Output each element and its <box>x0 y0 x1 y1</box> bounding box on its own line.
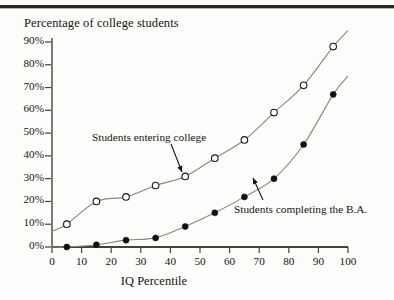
y-axis-tick-label: 90% <box>8 34 44 46</box>
x-axis-tick-label: 10 <box>69 255 95 267</box>
chart-figure: Percentage of college students Students … <box>0 0 394 300</box>
y-axis-tick-label: 60% <box>8 102 44 114</box>
y-axis-tick-label: 40% <box>8 148 44 160</box>
x-axis-tick-label: 60 <box>217 255 243 267</box>
x-axis-tick-label: 90 <box>305 255 331 267</box>
x-axis-title: IQ Percentile <box>0 274 394 289</box>
x-axis-tick-label: 0 <box>39 255 65 267</box>
x-axis-tick-label: 20 <box>98 255 124 267</box>
x-axis-tick-label: 30 <box>128 255 154 267</box>
annotation-students-completing-ba: Students completing the B.A. <box>234 203 367 215</box>
annotation-students-entering-college: Students entering college <box>92 131 206 143</box>
y-axis-tick-label: 50% <box>8 125 44 137</box>
x-axis-tick-label: 40 <box>157 255 183 267</box>
y-axis-tick-label: 10% <box>8 216 44 228</box>
x-axis-tick-label: 100 <box>335 255 361 267</box>
x-axis-tick-label: 50 <box>187 255 213 267</box>
x-axis-tick-label: 70 <box>246 255 272 267</box>
x-axis-tick-label: 80 <box>276 255 302 267</box>
y-axis-tick-label: 20% <box>8 193 44 205</box>
y-axis-tick-label: 70% <box>8 80 44 92</box>
x-axis-title-text: IQ Percentile <box>121 274 187 288</box>
y-axis-tick-label: 0% <box>8 239 44 251</box>
y-axis-tick-label: 80% <box>8 57 44 69</box>
y-axis-tick-label: 30% <box>8 171 44 183</box>
